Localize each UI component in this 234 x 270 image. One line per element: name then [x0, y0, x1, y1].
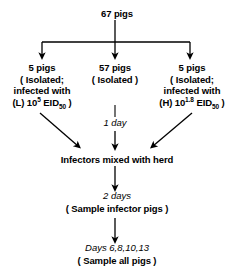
node-high-dose-dose-suffix: ) [219, 97, 225, 108]
node-low-dose-dose-prefix: (L) 10 [12, 97, 37, 108]
node-high-dose-isolation: ( Isolated; [150, 74, 234, 86]
label-two-days: 2 days [0, 190, 234, 201]
pig-infection-flowchart: 67 pigs 5 pigs ( Isolated; infected with… [0, 0, 234, 270]
node-total-pigs: 67 pigs [0, 8, 234, 20]
node-high-dose-dose-exponent: 1.8 [185, 95, 194, 102]
node-high-dose-count: 5 pigs [150, 62, 234, 74]
node-control-group: 57 pigs ( Isolated ) [78, 62, 152, 85]
node-low-dose-group: 5 pigs ( Isolated; infected with (L) 105… [0, 62, 84, 108]
label-two-days-text: 2 days [103, 190, 131, 201]
node-low-dose-count: 5 pigs [0, 62, 84, 74]
node-high-dose-dose-unit: EID [197, 97, 213, 108]
node-low-dose-dose: (L) 105 EID50 ) [0, 97, 84, 109]
node-sample-infector-pigs: ( Sample infector pigs ) [0, 203, 234, 215]
node-total-pigs-label: 67 pigs [0, 8, 234, 20]
label-sample-days-text: Days 6,8,10,13 [85, 242, 149, 253]
node-low-dose-dose-suffix: ) [66, 97, 72, 108]
node-sample-infector-pigs-label: ( Sample infector pigs ) [0, 203, 234, 215]
node-control-count: 57 pigs [78, 62, 152, 74]
label-one-day-text: 1 day [103, 117, 126, 128]
node-low-dose-dose-unit: EID [43, 97, 59, 108]
node-high-dose-dose: (H) 101.8 EID50 ) [150, 97, 234, 109]
node-low-dose-infected: infected with [0, 85, 84, 97]
label-sample-days: Days 6,8,10,13 [0, 242, 234, 253]
flowchart-connectors [0, 0, 234, 270]
node-control-isolation: ( Isolated ) [78, 74, 152, 86]
node-low-dose-dose-subscript: 50 [59, 102, 66, 109]
node-high-dose-dose-prefix: (H) 10 [159, 97, 185, 108]
connector-arrow-low-dose-to-mixing [40, 113, 78, 146]
node-sample-all-pigs: ( Sample all pigs ) [0, 255, 234, 267]
node-low-dose-isolation: ( Isolated; [0, 74, 84, 86]
connector-arrow-high-dose-to-mixing [153, 113, 192, 146]
node-high-dose-group: 5 pigs ( Isolated; infected with (H) 101… [150, 62, 234, 108]
label-one-day: 1 day [78, 117, 152, 128]
node-mixing: Infectors mixed with herd [0, 154, 234, 166]
node-mixing-label: Infectors mixed with herd [0, 154, 234, 166]
node-sample-all-pigs-label: ( Sample all pigs ) [0, 255, 234, 267]
